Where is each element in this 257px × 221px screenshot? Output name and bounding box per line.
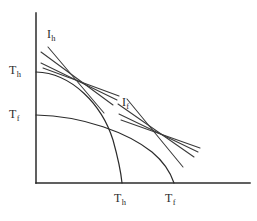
y-axis-label-th-symbol: T bbox=[9, 63, 16, 77]
tangent-line bbox=[43, 68, 119, 96]
x-axis-label-tf-symbol: T bbox=[165, 191, 172, 205]
x-axis-label-th-subscript: h bbox=[122, 197, 126, 207]
tangent-fan-if bbox=[118, 99, 200, 167]
tangent-line bbox=[118, 104, 194, 157]
curve-label-ih: Ih bbox=[47, 28, 55, 40]
y-axis-label-th-subscript: h bbox=[17, 69, 21, 79]
y-axis-label-th: Th bbox=[9, 64, 21, 76]
tangent-line bbox=[121, 120, 200, 148]
curve-label-if: If bbox=[122, 96, 129, 108]
x-axis-label-tf: Tf bbox=[165, 192, 175, 204]
x-axis-label-th-symbol: T bbox=[114, 191, 121, 205]
thermodynamic-isotherm-diagram: Th Tf Th Tf Ih If bbox=[0, 0, 257, 221]
x-axis-label-th: Th bbox=[114, 192, 126, 204]
y-axis-label-tf: Tf bbox=[9, 108, 19, 120]
tangent-line bbox=[41, 52, 113, 105]
isotherm-curve-tf bbox=[36, 115, 174, 183]
isotherm-curve-th bbox=[36, 72, 122, 183]
y-axis-label-tf-symbol: T bbox=[9, 107, 16, 121]
curve-label-if-subscript: f bbox=[126, 101, 129, 111]
curve-label-ih-subscript: h bbox=[51, 33, 55, 43]
tangent-line bbox=[127, 99, 183, 167]
tangent-fan-ih bbox=[41, 47, 119, 113]
